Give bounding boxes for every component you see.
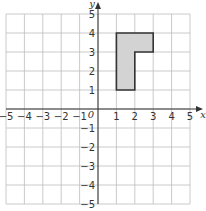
axis-labels: −5−4−3−2−11234512345−1−2−3−4−50xy [0, 0, 206, 210]
y-tick-label: −2 [80, 142, 95, 153]
y-axis-arrow-icon [95, 2, 101, 9]
y-tick-label: 1 [89, 85, 95, 96]
y-tick-label: 2 [89, 66, 95, 77]
x-tick-label: 5 [187, 111, 193, 122]
coordinate-grid-diagram: −5−4−3−2−11234512345−1−2−3−4−50xy [0, 0, 206, 211]
x-tick-label: −5 [0, 111, 13, 122]
y-tick-label: 5 [89, 9, 95, 20]
y-tick-label: −1 [80, 123, 95, 134]
y-tick-label: −4 [80, 180, 95, 191]
x-tick-label: −2 [54, 111, 69, 122]
shaded-l-shape [116, 33, 153, 90]
y-tick-label: −3 [80, 161, 95, 172]
axes [6, 2, 203, 204]
x-tick-label: 3 [150, 111, 156, 122]
x-tick-label: 1 [113, 111, 119, 122]
y-axis-label: y [88, 0, 95, 9]
origin-label: 0 [88, 109, 95, 120]
coordinate-plane: −5−4−3−2−11234512345−1−2−3−4−50xy [0, 0, 206, 211]
x-tick-label: −4 [17, 111, 32, 122]
x-tick-label: −1 [72, 111, 87, 122]
x-axis-label: x [200, 109, 206, 120]
x-tick-label: −3 [35, 111, 50, 122]
y-tick-label: 3 [89, 47, 95, 58]
x-tick-label: 4 [168, 111, 174, 122]
y-tick-label: 4 [89, 28, 95, 39]
x-tick-label: 2 [132, 111, 138, 122]
y-tick-label: −5 [80, 199, 95, 210]
